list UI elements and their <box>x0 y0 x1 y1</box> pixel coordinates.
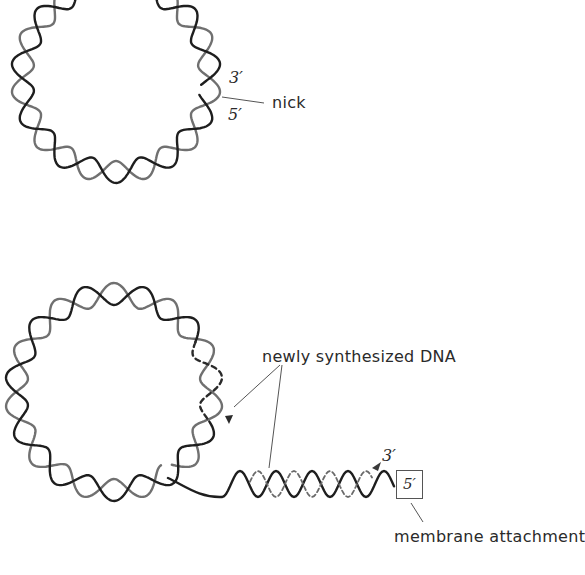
tail-growth-arrow-icon <box>372 462 381 471</box>
bottom-strand-dark <box>6 287 214 501</box>
nick-label: nick <box>272 95 306 111</box>
membrane-attachment-label: membrane attachment <box>394 529 585 545</box>
newly-synthesized-dna-label: newly synthesized DNA <box>262 349 456 365</box>
tail-five-prime-label: 5′ <box>403 477 416 492</box>
nick-leader-line <box>222 97 264 103</box>
top-circular-dna <box>12 0 220 183</box>
displaced-linear-tail <box>168 462 394 497</box>
membrane-anchor-box: 5′ <box>396 470 423 499</box>
membrane-leader-line <box>411 503 423 522</box>
bottom-circular-dna <box>6 283 233 501</box>
top-three-prime-label: 3′ <box>229 70 243 86</box>
new-strand-on-circle <box>193 342 223 421</box>
bottom-strand-gray <box>6 283 222 497</box>
new-dna-leader-line-1 <box>234 365 280 407</box>
top-five-prime-label: 5′ <box>228 107 242 123</box>
circle-growth-arrow-icon <box>225 415 233 424</box>
tail-three-prime-label: 3′ <box>382 448 396 464</box>
new-dna-leader-line-2 <box>269 365 282 468</box>
top-strand-gray <box>12 0 220 179</box>
